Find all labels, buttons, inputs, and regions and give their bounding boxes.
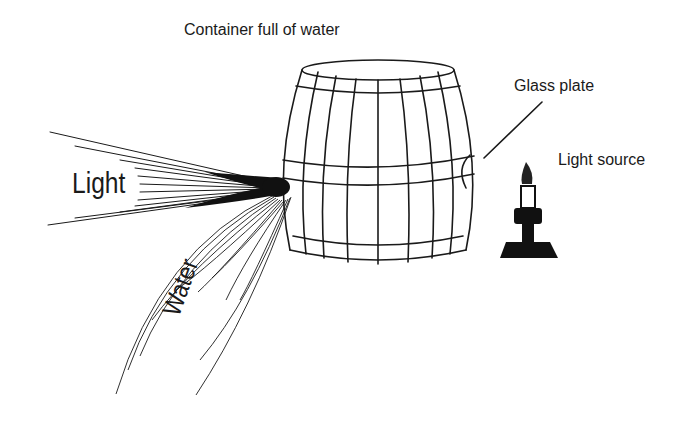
glass-plate-icon [462, 155, 470, 188]
candle-icon [500, 162, 558, 258]
water-stream-icon [116, 196, 291, 395]
barrel-icon [283, 60, 474, 264]
glass-plate-label: Glass plate [514, 78, 594, 94]
light-label: Light [72, 168, 125, 198]
light-source-label: Light source [558, 152, 645, 168]
glass-plate-leader [484, 102, 542, 158]
diagram-title: Container full of water [184, 22, 340, 38]
diagram-drawing [0, 0, 698, 423]
light-guiding-diagram: Container full of water Glass plate Ligh… [0, 0, 698, 423]
